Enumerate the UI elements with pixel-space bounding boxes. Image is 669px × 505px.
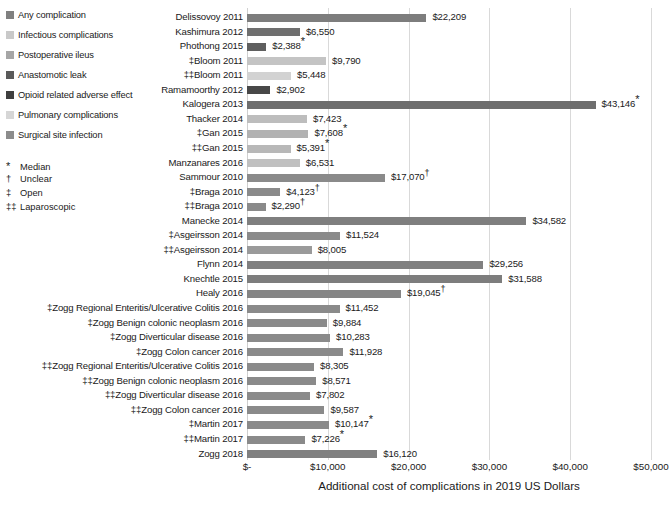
bar-row: Kashimura 2012$6,550 xyxy=(0,25,660,41)
bar-value-label: $6,531 xyxy=(306,157,334,169)
bar-row: ‡Zogg Benign colonic neoplasm 2016$9,884 xyxy=(0,316,660,332)
bar-row: Knechtle 2015$31,588 xyxy=(0,272,660,288)
x-axis-title: Additional cost of complications in 2019… xyxy=(247,479,651,493)
bar-value-label: $5,391* xyxy=(297,142,330,154)
bar xyxy=(247,290,401,298)
bar-row: ‡‡Gan 2015$5,391* xyxy=(0,141,660,157)
bar xyxy=(247,450,377,458)
bar-category-label: ‡‡Gan 2015 xyxy=(0,142,243,154)
bar-row: Zogg 2018$16,120 xyxy=(0,447,660,463)
bar-row: Thacker 2014$7,423 xyxy=(0,112,660,128)
bar-category-label: Thacker 2014 xyxy=(0,113,243,125)
value-mark-symbol: † xyxy=(300,197,305,207)
bar xyxy=(247,246,312,254)
bar xyxy=(247,392,310,400)
bar-category-label: Flynn 2014 xyxy=(0,258,243,270)
bar-category-label: ‡‡Asgeirsson 2014 xyxy=(0,244,243,256)
bar-value-label: $10,283 xyxy=(336,331,370,343)
bar-value-label: $9,790 xyxy=(332,55,360,67)
bar-row: Kalogera 2013$43,146* xyxy=(0,97,660,113)
bar-category-label: ‡‡Zogg Diverticular disease 2016 xyxy=(0,389,243,401)
bar-value-label: $6,550 xyxy=(306,26,334,38)
bar-row: ‡Zogg Regional Enteritis/Ulcerative Coli… xyxy=(0,301,660,317)
bar xyxy=(247,174,385,182)
bar-value-label: $9,587 xyxy=(330,404,358,416)
bar-row: Ramamoorthy 2012$2,902 xyxy=(0,83,660,99)
bar xyxy=(247,86,270,94)
bar-row: ‡‡Bloom 2011$5,448 xyxy=(0,68,660,84)
bar-value-label: $16,120 xyxy=(383,448,417,460)
bar-value-label: $11,452 xyxy=(346,302,379,314)
bar-category-label: ‡Zogg Colon cancer 2016 xyxy=(0,346,243,358)
bar xyxy=(247,43,266,51)
bar xyxy=(247,261,483,269)
bar-value-label: $2,290† xyxy=(272,200,305,212)
bar-category-label: ‡‡Martin 2017 xyxy=(0,433,243,445)
bar-row: Flynn 2014$29,256 xyxy=(0,257,660,273)
bar-category-label: ‡‡Bloom 2011 xyxy=(0,69,243,81)
bar-category-label: ‡Asgeirsson 2014 xyxy=(0,229,243,241)
value-mark-symbol: * xyxy=(340,428,344,440)
bar-category-label: ‡Bloom 2011 xyxy=(0,55,243,67)
bar-category-label: Delissovoy 2011 xyxy=(0,11,243,23)
x-tick-label: $20,000 xyxy=(391,461,426,473)
bar-category-label: Kashimura 2012 xyxy=(0,26,243,38)
bar xyxy=(247,145,291,153)
bar-category-label: Knechtle 2015 xyxy=(0,273,243,285)
bar xyxy=(247,232,340,240)
bar xyxy=(247,348,343,356)
x-axis-ticks: $-$10,000$20,000$30,000$40,000$50,000 xyxy=(0,461,660,475)
bar xyxy=(247,203,266,211)
bar-row: ‡Bloom 2011$9,790 xyxy=(0,54,660,70)
bar-value-label: $5,448 xyxy=(297,69,325,81)
bar-value-label: $19,045† xyxy=(407,287,446,299)
bar xyxy=(247,334,330,342)
bar xyxy=(247,305,340,313)
bar xyxy=(247,421,329,429)
bar xyxy=(247,57,326,65)
bar-value-label: $2,388* xyxy=(272,40,305,52)
bar-row: Healy 2016$19,045† xyxy=(0,286,660,302)
value-mark-symbol: * xyxy=(325,137,329,149)
bar-value-label: $34,582 xyxy=(532,215,566,227)
bar-value-label: $29,256 xyxy=(489,258,523,270)
bar-category-label: Sammour 2010 xyxy=(0,171,243,183)
bar-value-label: $43,146* xyxy=(602,98,640,110)
value-mark-symbol: * xyxy=(301,35,305,47)
bar xyxy=(247,101,596,109)
bar xyxy=(247,28,300,36)
bar xyxy=(247,14,426,22)
value-mark-symbol: † xyxy=(315,182,320,192)
value-mark-symbol: * xyxy=(369,413,373,425)
bar-category-label: Healy 2016 xyxy=(0,287,243,299)
bar-value-label: $11,928 xyxy=(349,346,382,358)
bar xyxy=(247,217,526,225)
bar-category-label: ‡‡Braga 2010 xyxy=(0,200,243,212)
value-mark-symbol: * xyxy=(635,93,639,105)
bar-category-label: Phothong 2015 xyxy=(0,40,243,52)
x-tick-label: $10,000 xyxy=(310,461,345,473)
bar xyxy=(247,436,305,444)
bar xyxy=(247,115,307,123)
x-tick-label: $40,000 xyxy=(552,461,587,473)
value-mark-symbol: † xyxy=(425,168,430,178)
x-tick-label: $50,000 xyxy=(633,461,668,473)
bar-row: Delissovoy 2011$22,209 xyxy=(0,10,660,26)
value-mark-symbol: † xyxy=(441,284,446,294)
bar-category-label: Zogg 2018 xyxy=(0,448,243,460)
bar-value-label: $22,209 xyxy=(432,11,466,23)
bar-row: ‡‡Braga 2010$2,290† xyxy=(0,199,660,215)
bar-row: ‡Braga 2010$4,123† xyxy=(0,185,660,201)
bar-value-label: $4,123† xyxy=(286,186,319,198)
bar-category-label: ‡Zogg Benign colonic neoplasm 2016 xyxy=(0,317,243,329)
bar-value-label: $17,070† xyxy=(391,171,430,183)
bar-value-label: $7,423 xyxy=(313,113,341,125)
bar xyxy=(247,188,280,196)
bar-value-label: $2,902 xyxy=(276,84,304,96)
bar-category-label: Ramamoorthy 2012 xyxy=(0,84,243,96)
bar-row: Sammour 2010$17,070† xyxy=(0,170,660,186)
bar-row: Manzanares 2016$6,531 xyxy=(0,156,660,172)
bar-category-label: ‡Zogg Diverticular disease 2016 xyxy=(0,331,243,343)
bar xyxy=(247,406,324,414)
bar-value-label: $7,608* xyxy=(314,127,347,139)
